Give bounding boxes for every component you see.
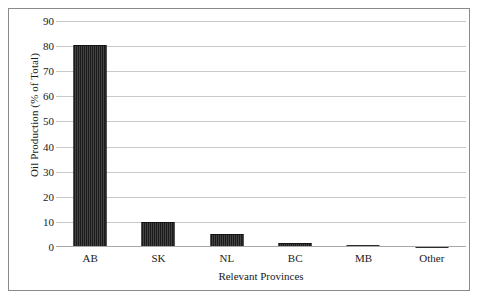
x-tick-label-sk: SK: [151, 252, 165, 264]
bar-slot: [329, 21, 397, 247]
bar-slot: [124, 21, 192, 247]
x-axis-baseline: [56, 246, 466, 247]
y-tick-label: 40: [10, 141, 54, 152]
bar-slot: [261, 21, 329, 247]
plot-area: [56, 21, 466, 247]
y-tick-label: 30: [10, 166, 54, 177]
x-axis-tick-labels: ABSKNLBCMBOther: [56, 252, 466, 270]
bar-sk[interactable]: [142, 222, 175, 247]
bar-slot: [398, 21, 466, 247]
x-tick-label-mb: MB: [355, 252, 372, 264]
bar-slot: [56, 21, 124, 247]
figure-frame: Oil Production (% of Total) 010203040506…: [8, 8, 470, 291]
x-tick-label-other: Other: [419, 252, 444, 264]
bar-chart: Oil Production (% of Total) 010203040506…: [9, 9, 471, 292]
x-tick-label-bc: BC: [288, 252, 303, 264]
y-tick-label: 10: [10, 216, 54, 227]
y-tick-label: 20: [10, 191, 54, 202]
y-tick-label: 90: [10, 16, 54, 27]
bar-slot: [193, 21, 261, 247]
y-tick-label: 0: [10, 242, 54, 253]
y-tick-label: 60: [10, 91, 54, 102]
bars-layer: [56, 21, 466, 247]
x-tick-label-ab: AB: [83, 252, 98, 264]
y-tick-label: 50: [10, 116, 54, 127]
bar-ab[interactable]: [74, 45, 107, 247]
y-tick-label: 70: [10, 66, 54, 77]
x-tick-label-nl: NL: [219, 252, 234, 264]
y-axis-tick-labels: 0102030405060708090: [9, 9, 56, 292]
y-tick-label: 80: [10, 41, 54, 52]
x-axis-title: Relevant Provinces: [56, 270, 466, 282]
